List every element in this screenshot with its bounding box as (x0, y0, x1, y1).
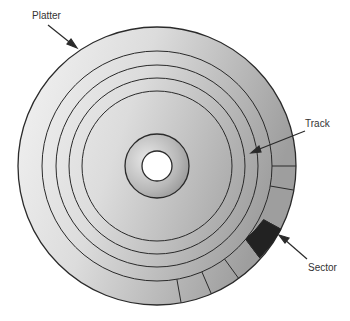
sector-arrow (284, 239, 307, 259)
track-label: Track (305, 118, 330, 129)
platter-label: Platter (32, 10, 61, 21)
sector-label: Sector (308, 262, 337, 273)
disk-diagram (0, 0, 350, 321)
platter-arrow-head (67, 39, 77, 48)
spindle-hole (142, 151, 172, 181)
